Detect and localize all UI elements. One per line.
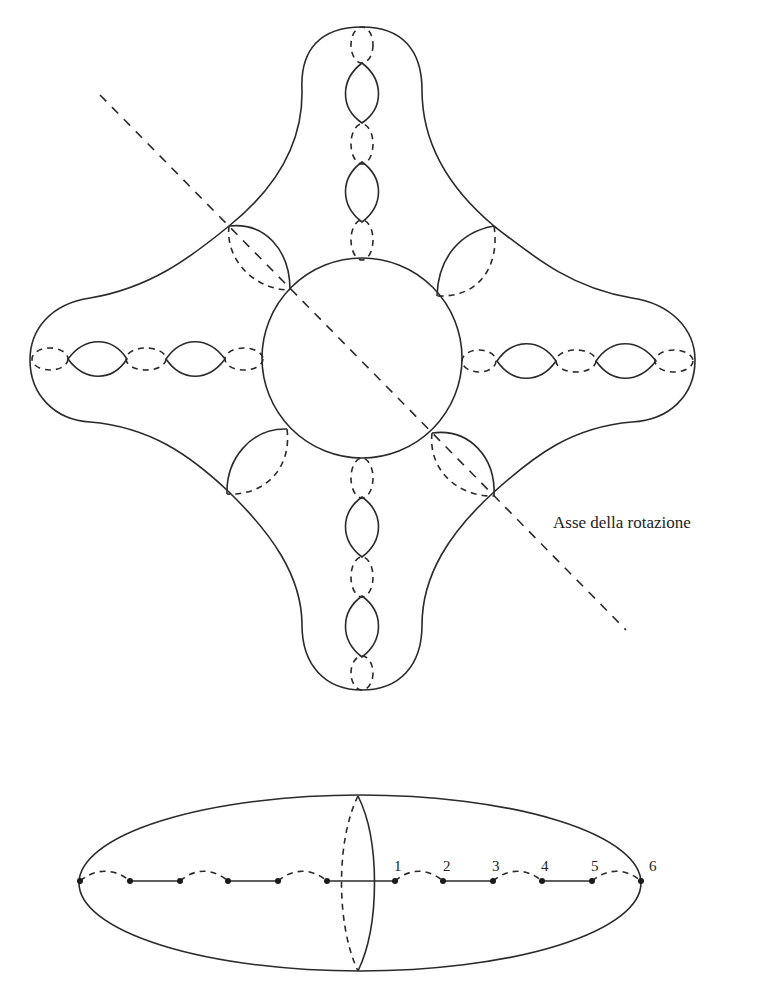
handle-upper-right-solid [437, 226, 494, 296]
point-label-6: 6 [649, 858, 657, 874]
bottom-arm-chain [346, 458, 379, 690]
outer-boundary [30, 27, 695, 690]
outer-ellipse [79, 795, 641, 971]
ellipse-diagram: 1 2 3 4 5 6 [77, 795, 657, 971]
right-arm-chain [462, 344, 693, 379]
four-arm-surface: Asse della rotazione [30, 27, 695, 690]
point-label-4: 4 [541, 858, 549, 874]
point-label-5: 5 [591, 858, 599, 874]
dashed-arcs [80, 871, 641, 881]
point-label-1: 1 [394, 858, 402, 874]
rotation-axis-line [100, 95, 626, 630]
top-arm-chain [346, 27, 379, 260]
meridian-back [342, 796, 359, 971]
figure-canvas: Asse della rotazione [0, 0, 769, 998]
rotation-axis-label: Asse della rotazione [553, 513, 691, 532]
handle-lower-left-solid [227, 429, 287, 494]
meridian-front [358, 796, 375, 971]
point-label-2: 2 [443, 858, 451, 874]
central-sphere [262, 258, 462, 458]
point-label-3: 3 [492, 858, 500, 874]
left-arm-chain [32, 342, 263, 377]
handle-lower-left-dashed [227, 429, 288, 494]
